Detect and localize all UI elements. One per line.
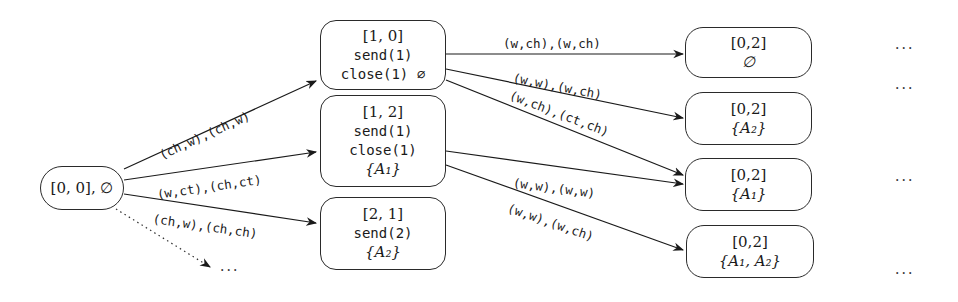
ellipsis-m1: ··· [895,40,914,56]
state-node-0-2-empty: [0,2] ∅ [685,27,812,78]
action-line: send(2) [353,224,412,243]
state-label: [0, 0], ∅ [51,179,114,198]
edges-layer [0,0,958,302]
ellipsis-m4: ··· [895,265,914,281]
state-node-2-1: [2, 1] send(2) {A₂} [320,197,446,270]
state-node-0-2-a1a2: [0,2] {A₁, A₂} [686,225,814,278]
set-label: {A₂} [731,119,767,138]
state-label: [0,2] [731,34,767,53]
state-label: [1, 2] [363,103,403,122]
set-label: {A₁} [365,160,401,179]
set-label: {A₂} [365,243,401,262]
action-line: close(1) ∅ [341,65,425,84]
state-node-1-0: [1, 0] send(1) close(1) ∅ [320,20,446,90]
state-label: [0,2] [732,233,768,252]
ellipsis-more-root: ··· [220,262,239,278]
state-label: [0,2] [731,166,767,185]
state-node-root: [0, 0], ∅ [40,166,124,210]
ellipsis-m2: ··· [895,80,914,96]
set-label: ∅ [742,53,755,72]
state-label: [1, 0] [363,27,403,46]
state-node-0-2-a2: [0,2] {A₂} [685,92,812,145]
action-line: send(1) [353,122,412,141]
state-label: [2, 1] [363,205,403,224]
set-label: {A₁, A₂} [719,252,781,271]
action-line: close(1) [349,141,416,160]
state-label: [0,2] [731,100,767,119]
edge-label: (w,ch),(w,ch) [503,36,601,51]
state-node-0-2-a1: [0,2] {A₁} [685,158,812,211]
set-label: {A₁} [731,185,767,204]
state-node-1-2: [1, 2] send(1) close(1) {A₁} [320,95,446,187]
edge-n12-m4 [446,165,683,250]
action-line: send(1) [353,46,412,65]
edge-n12-m3 [446,151,683,184]
ellipsis-m3: ··· [895,172,914,188]
